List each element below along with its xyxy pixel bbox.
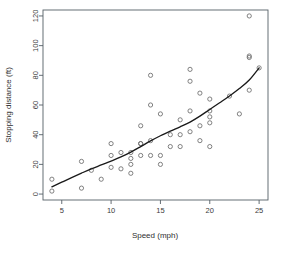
data-point xyxy=(158,162,162,166)
data-point xyxy=(208,97,212,101)
y-tick-label: 20 xyxy=(31,160,40,168)
data-point xyxy=(237,112,241,116)
x-tick-label: 20 xyxy=(206,206,214,215)
data-point xyxy=(208,115,212,119)
plot-canvas: 020406080100120 510152025 Speed (mph) St… xyxy=(0,0,282,253)
data-point xyxy=(139,153,143,157)
data-point xyxy=(79,186,83,190)
data-point xyxy=(247,88,251,92)
data-point xyxy=(168,144,172,148)
data-point xyxy=(99,177,103,181)
y-tick-label: 120 xyxy=(31,10,40,23)
data-point xyxy=(198,139,202,143)
y-tick-label: 0 xyxy=(31,192,40,196)
data-point xyxy=(188,67,192,71)
data-point xyxy=(188,109,192,113)
y-tick-label: 100 xyxy=(31,39,40,52)
data-point xyxy=(79,159,83,163)
data-point xyxy=(168,133,172,137)
data-point xyxy=(148,103,152,107)
data-point xyxy=(198,91,202,95)
data-point xyxy=(148,153,152,157)
data-point xyxy=(119,150,123,154)
data-point xyxy=(188,79,192,83)
data-point xyxy=(109,153,113,157)
x-axis-ticks: 510152025 xyxy=(60,200,264,215)
data-point xyxy=(188,130,192,134)
y-tick-label: 40 xyxy=(31,131,40,139)
data-point xyxy=(178,133,182,137)
data-point xyxy=(178,118,182,122)
data-point xyxy=(158,153,162,157)
data-point xyxy=(247,14,251,18)
scatter-plot-figure: 020406080100120 510152025 Speed (mph) St… xyxy=(0,0,282,253)
data-point xyxy=(129,162,133,166)
data-point xyxy=(50,177,54,181)
lowess-smooth-curve xyxy=(52,68,259,187)
y-tick-label: 80 xyxy=(31,71,40,79)
y-axis-ticks: 020406080100120 xyxy=(31,10,44,196)
data-point xyxy=(129,171,133,175)
data-point xyxy=(129,156,133,160)
y-tick-label: 60 xyxy=(31,101,40,109)
data-point xyxy=(208,144,212,148)
data-point xyxy=(158,112,162,116)
data-point xyxy=(119,167,123,171)
data-point xyxy=(198,124,202,128)
x-tick-label: 25 xyxy=(255,206,263,215)
x-tick-label: 5 xyxy=(60,206,64,215)
x-axis-title: Speed (mph) xyxy=(132,231,179,240)
plot-frame xyxy=(43,10,268,200)
data-point xyxy=(109,165,113,169)
data-point xyxy=(109,141,113,145)
data-point xyxy=(148,73,152,77)
data-point xyxy=(50,189,54,193)
data-point xyxy=(139,124,143,128)
x-tick-label: 10 xyxy=(107,206,115,215)
data-point xyxy=(208,121,212,125)
data-point xyxy=(178,144,182,148)
y-axis-title: Stopping distance (ft) xyxy=(4,67,13,143)
x-tick-label: 15 xyxy=(156,206,164,215)
data-points xyxy=(50,14,261,193)
